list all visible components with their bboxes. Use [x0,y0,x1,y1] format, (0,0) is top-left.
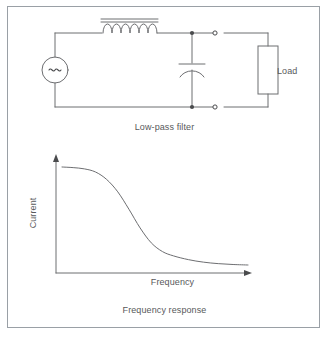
load-label: Load [277,66,297,76]
figure-low-pass-filter: Low-pass filter Load Current Frequency F… [0,0,329,337]
frequency-response-caption: Frequency response [0,305,329,315]
chart-x-axis-label: Frequency [0,277,329,287]
low-pass-filter-caption: Low-pass filter [0,122,329,132]
chart-y-axis-label: Current [28,178,38,248]
